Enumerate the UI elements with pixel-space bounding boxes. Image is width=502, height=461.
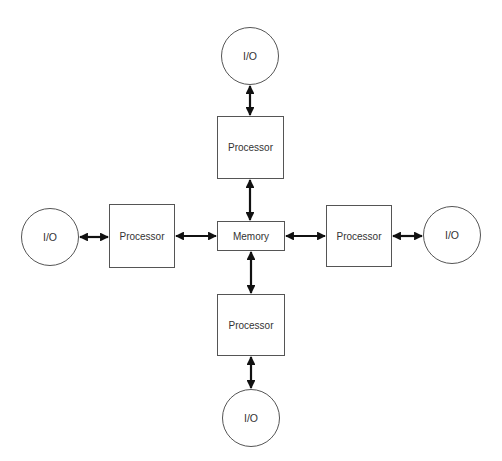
io-right-label: I/O (445, 229, 459, 241)
memory-node: Memory (217, 221, 285, 251)
io-bottom-node: I/O (222, 389, 280, 447)
memory-label: Memory (233, 231, 269, 242)
processor-left-label: Processor (119, 231, 164, 242)
processor-bottom-label: Processor (228, 320, 273, 331)
processor-bottom-node: Processor (217, 294, 285, 356)
processor-right-node: Processor (326, 205, 392, 267)
io-left-node: I/O (21, 208, 79, 266)
processor-left-node: Processor (109, 204, 175, 268)
processor-right-label: Processor (336, 231, 381, 242)
io-left-label: I/O (43, 231, 57, 243)
processor-top-node: Processor (217, 116, 284, 179)
io-right-node: I/O (423, 206, 481, 264)
io-top-node: I/O (221, 27, 279, 85)
io-top-label: I/O (243, 50, 257, 62)
io-bottom-label: I/O (244, 412, 258, 424)
processor-top-label: Processor (228, 142, 273, 153)
